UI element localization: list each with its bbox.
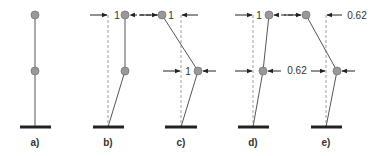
- panel-b: 1 b): [90, 10, 129, 148]
- panel-e: 0.62 e): [302, 10, 367, 148]
- panel-caption: e): [322, 137, 331, 148]
- mid-force-label: 0.62: [287, 65, 307, 76]
- top-displacement-label: 1: [114, 10, 120, 21]
- panel-c: 1 1 c): [158, 10, 216, 148]
- top-displacement-label: 1: [256, 10, 262, 21]
- panel-caption: d): [248, 137, 257, 148]
- upper-member: [306, 15, 337, 71]
- mode-shape-diagram: a) 1 b) 1 1 c) 1 0.62: [0, 0, 381, 156]
- top-displacement-label: 0.62: [347, 10, 367, 21]
- lower-member: [181, 71, 198, 127]
- upper-member: [162, 15, 198, 71]
- top-mass-node: [121, 11, 129, 19]
- lower-member: [253, 71, 263, 127]
- mid-mass-node: [333, 67, 341, 75]
- upper-member: [263, 15, 269, 71]
- panel-caption: a): [31, 137, 40, 148]
- panel-a: a): [20, 11, 51, 148]
- panel-caption: b): [103, 137, 112, 148]
- mid-mass-node: [194, 67, 202, 75]
- mid-mass-node: [259, 67, 267, 75]
- top-mass-node: [158, 11, 166, 19]
- lower-member: [326, 71, 337, 127]
- lower-member: [108, 71, 125, 127]
- top-mass-node: [265, 11, 273, 19]
- mid-mass-node: [121, 67, 129, 75]
- top-mass-node: [302, 11, 310, 19]
- top-mass-node: [31, 11, 39, 19]
- mid-displacement-label: 1: [185, 66, 191, 77]
- panel-caption: c): [177, 137, 186, 148]
- top-displacement-label: 1: [168, 10, 174, 21]
- mid-mass-node: [31, 67, 39, 75]
